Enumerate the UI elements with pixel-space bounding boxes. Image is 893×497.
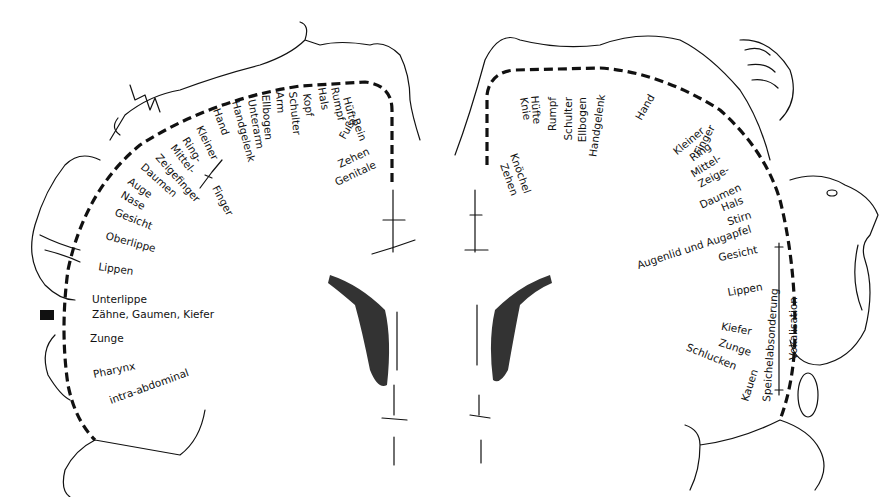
label-oberlippe: Oberlippe (104, 229, 157, 254)
label-r-rumpf: Rumpf (546, 97, 558, 131)
label-r-gesicht: Gesicht (717, 243, 758, 263)
label-r-ellbogen: Ellbogen (576, 97, 588, 142)
left-lips-figure (40, 235, 80, 262)
right-face-figure (790, 176, 878, 365)
label-r-kauen: Kauen (738, 368, 760, 403)
left-teeth-figure (40, 310, 54, 320)
right-ventricle (491, 275, 552, 381)
right-hemisphere (455, 36, 878, 490)
left-hand-figure (114, 85, 160, 135)
label-lippen: Lippen (98, 260, 135, 277)
label-r-schulter: Schulter (562, 96, 574, 140)
label-finger: Finger (210, 183, 236, 218)
right-labels: Knöchel Zehen Knie Hüfte Rumpf Schulter … (498, 92, 799, 403)
label-r-huefte: Hüfte (529, 95, 543, 125)
right-tongue-figure (798, 373, 818, 417)
left-labels: Zehen Genitale Fuß Bein Hüfte Rumpf Hals… (90, 86, 378, 406)
right-body-figure (455, 36, 770, 160)
midline-bottom (382, 385, 490, 465)
label-schulter: Schulter (287, 91, 304, 136)
label-r-lippen: Lippen (727, 280, 764, 298)
label-r-speichel: Speichelabsonderung (760, 288, 780, 402)
label-r-handgelenk: Handgelenk (586, 93, 607, 158)
label-zunge: Zunge (90, 332, 124, 344)
label-r-kiefer: Kiefer (720, 320, 753, 337)
label-arm: Arm (274, 91, 287, 113)
left-ventricle (328, 275, 389, 386)
label-r-augenlid: Augenlid und Augapfel (635, 222, 752, 270)
label-unterlippe: Unterlippe (92, 293, 147, 305)
midline-structures (328, 190, 552, 465)
right-hand-figure (740, 40, 793, 120)
right-eye-figure (827, 190, 837, 196)
left-hemisphere (32, 22, 420, 497)
right-midline-top (465, 190, 488, 252)
label-hand: Hand (211, 107, 232, 137)
label-pharynx: Pharynx (92, 359, 136, 380)
right-mouth-figure (855, 245, 862, 310)
label-kopf: Kopf (301, 93, 316, 118)
septum-lines (397, 305, 477, 370)
label-r-hand: Hand (633, 92, 657, 122)
label-gesicht: Gesicht (113, 206, 154, 232)
homunculus-diagram: Zehen Genitale Fuß Bein Hüfte Rumpf Hals… (0, 0, 893, 497)
label-hals: Hals (316, 86, 332, 110)
label-r-vokalisation: Vokalisation (787, 297, 799, 360)
right-throat-figure (685, 420, 824, 490)
label-zaehne: Zähne, Gaumen, Kiefer (92, 308, 215, 320)
left-midline-top (372, 190, 415, 254)
left-abdomen-figure (63, 410, 205, 497)
